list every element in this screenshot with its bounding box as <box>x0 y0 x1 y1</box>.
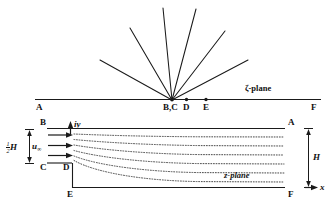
zeta-label-F: F <box>311 103 317 112</box>
z-streamline-5 <box>74 156 284 173</box>
z-label-B: B <box>40 118 46 127</box>
z-streamlines <box>74 134 284 182</box>
z-inflow-arrows <box>48 132 73 158</box>
zeta-plane-group <box>35 8 321 101</box>
z-streamline-3 <box>74 145 284 155</box>
zeta-ray-5 <box>172 31 225 100</box>
z-label-E: E <box>67 190 73 199</box>
zeta-ray-1 <box>100 60 172 100</box>
z-plane-group <box>25 121 318 190</box>
freestream-velocity-label: u∞ <box>32 142 41 152</box>
z-plane-label: z-plane <box>224 171 250 180</box>
fraction-denominator: 2 <box>6 148 10 154</box>
z-label-C: C <box>40 163 47 172</box>
z-inflow-arrow-2 <box>48 143 73 149</box>
full-height-dimension <box>304 129 313 188</box>
z-inflow-arrow-1 <box>48 132 73 138</box>
z-streamline-1 <box>74 134 284 137</box>
zeta-point-d <box>185 98 188 101</box>
zeta-ray-4 <box>172 9 196 100</box>
fraction-numerator: 1 <box>6 141 10 148</box>
full-height-label: H <box>313 153 320 162</box>
z-label-A: A <box>288 118 295 127</box>
z-vertical-axis-label: iy <box>74 120 81 129</box>
zeta-label-E: E <box>203 103 209 112</box>
half-height-symbol: H <box>10 142 17 152</box>
zeta-point-e <box>204 98 207 101</box>
z-streamline-2 <box>74 140 284 147</box>
conformal-mapping-figure: A B,C D E F ζ-plane B A C D E F iy x z-p… <box>0 0 333 204</box>
zeta-label-BC: B,C <box>163 103 178 112</box>
z-label-F: F <box>288 190 294 199</box>
zeta-label-D: D <box>183 103 190 112</box>
zeta-plane-label: ζ-plane <box>245 84 271 93</box>
z-horizontal-axis-label: x <box>320 183 325 192</box>
one-half-fraction: 12 <box>6 141 10 154</box>
velocity-subscript: ∞ <box>37 146 41 152</box>
zeta-label-A: A <box>36 103 43 112</box>
z-streamline-4 <box>74 151 284 165</box>
zeta-ray-6 <box>172 60 248 100</box>
z-vertical-axis-arrow <box>68 121 73 134</box>
z-inflow-arrow-3 <box>48 153 73 159</box>
zeta-point-bc <box>170 98 174 102</box>
z-label-D: D <box>63 163 70 172</box>
zeta-ray-fan <box>100 8 248 100</box>
half-height-label: 12H <box>6 141 17 154</box>
